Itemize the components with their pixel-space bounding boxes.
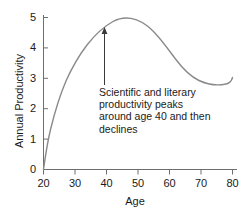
callout-line-2: productivity peaks (99, 98, 247, 110)
ytick-label-0: 0 (22, 164, 36, 175)
xtick-label-50: 50 (128, 178, 148, 189)
xtick-label-70: 70 (191, 178, 211, 189)
callout-arrow (102, 27, 108, 85)
xtick-label-80: 80 (223, 178, 243, 189)
xtick-label-40: 40 (97, 178, 117, 189)
x-axis-title: Age (75, 195, 195, 207)
callout-line-1: Scientific and literary (99, 86, 247, 98)
ytick-label-5: 5 (22, 12, 36, 23)
xtick-label-60: 60 (160, 178, 180, 189)
peak-callout-text: Scientific and literary productivity pea… (99, 86, 247, 135)
callout-line-3: around age 40 and then (99, 110, 247, 122)
y-axis-title: Annual Productivity (13, 41, 25, 161)
x-tick-marks (44, 170, 233, 175)
callout-line-4: declines (99, 123, 247, 135)
xtick-label-30: 30 (65, 178, 85, 189)
productivity-age-chart: 0 1 2 3 4 5 20 30 40 50 60 70 80 Annual … (0, 0, 248, 220)
xtick-label-20: 20 (34, 178, 54, 189)
